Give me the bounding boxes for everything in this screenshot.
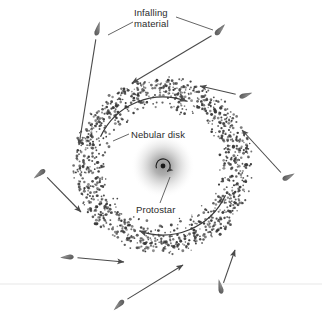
blob-left-middle-arrow bbox=[47, 177, 81, 212]
protostar-core bbox=[131, 134, 195, 198]
blob-right-upper-arrow bbox=[200, 86, 236, 94]
infalling-leader-right bbox=[176, 17, 213, 30]
blob-bottom-right bbox=[216, 279, 224, 294]
blob-left-lower-arrow bbox=[78, 258, 125, 262]
label-infalling-material: Infalling material bbox=[134, 8, 169, 29]
blob-right-lower bbox=[282, 171, 296, 182]
infalling-leader-left bbox=[108, 22, 133, 35]
blob-bottom-left-arrow bbox=[127, 265, 183, 299]
blob-right-upper bbox=[239, 90, 253, 99]
blob-top-right bbox=[213, 23, 226, 37]
blob-left-lower bbox=[60, 254, 74, 260]
nebular-disk-leader bbox=[113, 134, 129, 141]
blob-left-middle bbox=[32, 168, 46, 181]
protostar-diagram: Infalling material Nebular disk Protosta… bbox=[0, 0, 322, 317]
blob-bottom-right-arrow bbox=[224, 250, 236, 283]
blob-top-right-arrow bbox=[132, 36, 212, 83]
blob-bottom-left bbox=[112, 299, 125, 312]
blob-top-left bbox=[94, 21, 102, 36]
diagram-canvas bbox=[0, 0, 322, 317]
label-protostar: Protostar bbox=[136, 205, 175, 216]
label-nebular-disk: Nebular disk bbox=[131, 130, 185, 141]
